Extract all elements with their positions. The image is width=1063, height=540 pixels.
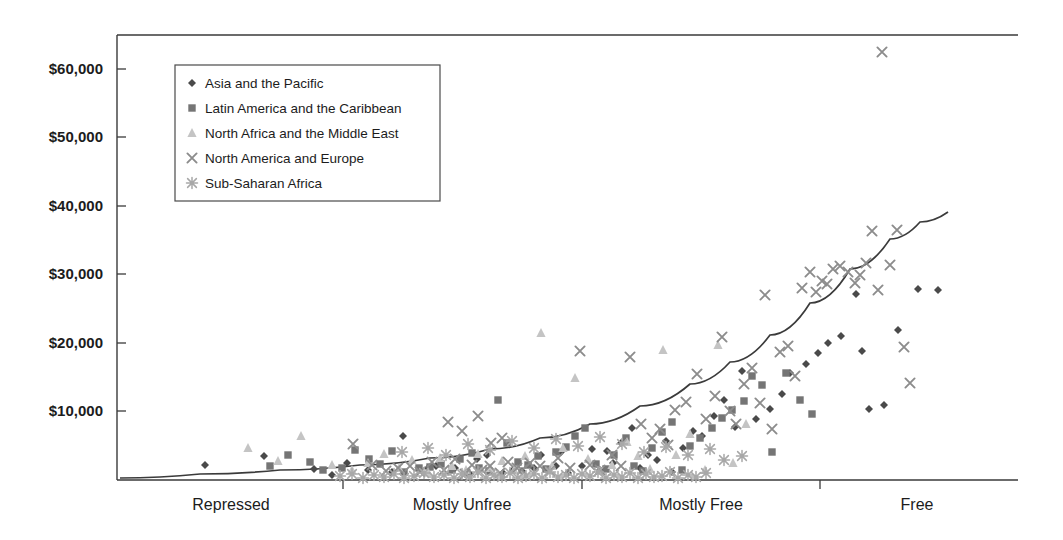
- data-point: [696, 434, 703, 441]
- legend[interactable]: Asia and the PacificLatin America and th…: [175, 65, 440, 201]
- data-point: [636, 419, 645, 428]
- data-point: [399, 432, 407, 440]
- legend-label-1: Latin America and the Caribbean: [205, 101, 402, 116]
- data-point: [668, 418, 675, 425]
- data-point: [877, 47, 886, 56]
- plot-canvas: $10,000$20,000$30,000$40,000$50,000$60,0…: [0, 0, 1063, 540]
- data-point: [625, 352, 634, 361]
- data-point: [273, 456, 282, 465]
- data-point: [379, 449, 388, 458]
- data-point: [894, 326, 902, 334]
- data-point: [609, 470, 620, 481]
- data-point: [616, 461, 625, 470]
- data-point: [423, 443, 434, 454]
- data-point: [443, 417, 452, 426]
- data-point: [782, 369, 789, 376]
- data-point: [494, 396, 501, 403]
- data-point: [648, 444, 655, 451]
- data-point: [397, 447, 408, 458]
- data-point: [671, 450, 680, 459]
- data-point: [899, 342, 908, 351]
- series-asia-and-the-pacific: [201, 285, 942, 479]
- data-point: [739, 379, 748, 388]
- data-point: [628, 424, 636, 432]
- legend-item-4[interactable]: Sub-Saharan Africa: [187, 176, 323, 191]
- x-tick-label-3: Free: [901, 496, 934, 513]
- data-point: [670, 405, 679, 414]
- legend-item-3[interactable]: North America and Europe: [187, 151, 364, 166]
- data-point: [701, 414, 710, 423]
- data-point: [892, 225, 901, 234]
- data-point: [748, 372, 755, 379]
- data-point: [858, 347, 866, 355]
- data-point: [758, 381, 765, 388]
- data-point: [639, 447, 650, 458]
- data-point: [369, 470, 380, 481]
- data-point: [865, 405, 873, 413]
- data-point: [266, 462, 273, 469]
- data-point: [760, 290, 769, 299]
- data-point: [686, 442, 693, 449]
- x-tick-label-0: Repressed: [192, 496, 269, 513]
- data-point: [778, 390, 786, 398]
- x-tick-label-1: Mostly Unfree: [413, 496, 512, 513]
- data-point: [701, 468, 712, 479]
- data-point: [814, 349, 822, 357]
- data-point: [536, 328, 545, 337]
- data-point: [824, 339, 832, 347]
- data-point: [647, 433, 656, 442]
- data-point: [439, 470, 450, 481]
- data-point: [306, 458, 313, 465]
- data-point: [797, 283, 806, 292]
- data-point: [379, 472, 390, 483]
- scatter-chart-root: $10,000$20,000$30,000$40,000$50,000$60,0…: [0, 0, 1063, 540]
- data-point: [641, 469, 652, 480]
- data-point: [601, 473, 612, 484]
- data-point: [843, 267, 852, 276]
- data-point: [561, 470, 572, 481]
- data-point: [738, 367, 746, 375]
- data-point: [468, 449, 475, 456]
- data-point: [653, 456, 661, 464]
- data-point: [658, 345, 667, 354]
- data-point: [665, 467, 676, 478]
- data-point: [717, 332, 726, 341]
- data-point: [328, 471, 336, 479]
- legend-item-2[interactable]: North Africa and the Middle East: [187, 126, 398, 141]
- legend-marker-square-icon: [188, 104, 195, 111]
- legend-label-0: Asia and the Pacific: [205, 76, 324, 91]
- data-point: [284, 451, 291, 458]
- data-point: [473, 467, 484, 478]
- legend-item-0[interactable]: Asia and the Pacific: [188, 76, 324, 91]
- data-point: [358, 473, 369, 484]
- y-tick-label-2: $30,000: [49, 265, 103, 282]
- data-point: [485, 445, 496, 456]
- data-point: [593, 467, 604, 478]
- data-point: [710, 391, 719, 400]
- data-point: [811, 287, 820, 296]
- data-point: [583, 454, 592, 463]
- data-point: [573, 441, 584, 452]
- data-point: [473, 411, 482, 420]
- data-point: [429, 472, 440, 483]
- data-point: [767, 424, 776, 433]
- data-point: [766, 405, 774, 413]
- data-point: [740, 397, 747, 404]
- data-point: [796, 396, 803, 403]
- data-point: [551, 434, 562, 445]
- data-point: [463, 439, 474, 450]
- data-point: [768, 448, 775, 455]
- y-tick-label-5: $60,000: [49, 60, 103, 77]
- data-point: [752, 415, 760, 423]
- data-point: [497, 433, 506, 442]
- data-point: [837, 332, 845, 340]
- data-point: [741, 419, 750, 428]
- data-point: [885, 260, 894, 269]
- data-point: [581, 424, 588, 431]
- x-tick-label-2: Mostly Free: [659, 496, 743, 513]
- legend-item-1[interactable]: Latin America and the Caribbean: [188, 101, 401, 116]
- trend-curve-path: [120, 212, 948, 478]
- data-point: [880, 401, 888, 409]
- data-point: [529, 443, 540, 454]
- data-point: [692, 369, 701, 378]
